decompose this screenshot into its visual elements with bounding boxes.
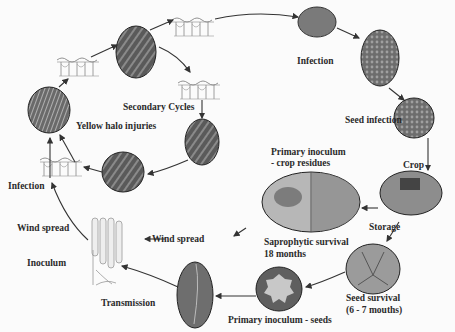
label-wind-spread-center: Wind spread xyxy=(152,234,204,245)
label-seed-survival-2: (6 - 7 mouths) xyxy=(346,305,402,316)
label-infection-top: Infection xyxy=(297,56,333,67)
label-secondary-cycles: Secondary Cycles xyxy=(123,102,195,113)
leaf-lesion-photo-top xyxy=(116,26,156,78)
arrows-layer xyxy=(0,0,455,332)
yellow-halo-photo xyxy=(28,87,70,133)
tissue-sketch-left xyxy=(57,58,99,76)
field-infection-photo xyxy=(298,7,336,37)
label-saprophytic-survival-1: Saprophytic survival xyxy=(264,237,349,248)
label-seed-survival-1: Seed survival xyxy=(346,293,400,304)
leaf-lesion-photo-right xyxy=(185,119,219,165)
tissue-sketch-bottom-left xyxy=(40,158,82,176)
label-storage: Storage xyxy=(369,222,400,233)
label-yellow-halo-injuries: Yellow halo injuries xyxy=(76,121,156,132)
seed-storage-photo xyxy=(346,244,400,294)
label-wind-spread-left: Wind spread xyxy=(17,223,69,234)
infected-ear-photo xyxy=(361,30,399,86)
spore-sketch xyxy=(92,218,122,285)
storage-barn-photo xyxy=(380,171,442,215)
label-seed-infection: Seed infection xyxy=(345,115,402,126)
tissue-sketch-right xyxy=(178,81,220,99)
disease-cycle-diagram: Infection Seed infection Crop Primary in… xyxy=(0,0,455,332)
barn-shape xyxy=(400,178,420,190)
tissue-sketch-top xyxy=(172,18,214,36)
label-primary-inoculum-seeds: Primary inoculum - seeds xyxy=(228,315,332,326)
label-primary-inoculum-residues-2: - crop residues xyxy=(271,158,330,169)
leaf-lesion-photo-bottom xyxy=(102,152,144,192)
label-primary-inoculum-residues-1: Primary inoculum xyxy=(271,147,346,158)
label-inoculum: Inoculum xyxy=(27,258,66,269)
label-saprophytic-survival-2: 18 months xyxy=(264,249,306,260)
label-crop: Crop xyxy=(403,160,424,171)
label-transmission: Transmission xyxy=(101,298,155,309)
label-infection-left: Infection xyxy=(8,181,44,192)
